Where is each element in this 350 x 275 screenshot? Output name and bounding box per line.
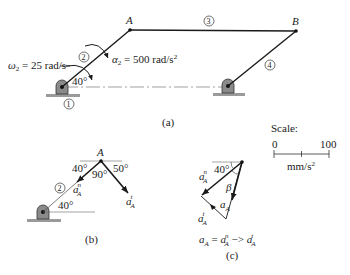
at-label-c: atA — [198, 210, 207, 227]
angle-40-label: 40° — [72, 75, 87, 87]
svg-text:2: 2 — [82, 53, 86, 62]
link-number-1: 1 — [64, 99, 74, 109]
label-point-B: B — [292, 15, 299, 27]
panel-c: 40° β anA aA atA aA = anA −> atA (c) — [198, 160, 256, 262]
joint-A — [128, 28, 132, 32]
beta-label: β — [225, 181, 232, 193]
omega-label: ω2 = 25 rad/s — [8, 59, 66, 73]
caption-b: (b) — [85, 233, 98, 246]
caption-a: (a) — [162, 116, 175, 129]
vector-equation: aA = anA −> atA — [199, 232, 256, 248]
link-4 — [228, 31, 296, 86]
alpha-arc-arrow — [85, 45, 108, 59]
an-label-c: anA — [199, 168, 208, 185]
angle-90: 90° — [92, 168, 107, 180]
scale-title: Scale: — [271, 122, 298, 134]
link-number-2: 2 — [79, 52, 89, 62]
link-3 — [130, 30, 296, 31]
angle-40-base: 40° — [58, 199, 73, 211]
label-point-A: A — [125, 14, 133, 26]
angle-40-left: 40° — [72, 162, 87, 174]
an-label: anA — [73, 181, 82, 198]
scale-min: 0 — [272, 138, 278, 150]
link-number-2-b: 2 — [55, 183, 65, 193]
svg-text:4: 4 — [268, 61, 272, 70]
alpha-label: α2 = 500 rad/s2 — [112, 53, 178, 67]
four-bar-linkage-figure: A B 1 2 3 4 ω2 = 25 rad/s α2 = 500 rad/s… — [0, 0, 350, 275]
scale-bar: Scale: 0 100 mm/s2 — [271, 122, 337, 172]
link-number-4: 4 — [265, 60, 275, 70]
caption-c: (c) — [226, 249, 239, 262]
panel-b: A 40° 50° 90° 40° 2 anA atA (b) — [27, 146, 135, 246]
angle-50-right: 50° — [113, 162, 128, 174]
scale-unit: mm/s2 — [287, 160, 315, 172]
label-point-A-b: A — [96, 146, 104, 158]
beta-arc — [232, 171, 239, 174]
joint-B — [294, 29, 298, 33]
apex-point-c — [240, 160, 244, 164]
scale-max: 100 — [320, 138, 337, 150]
link-number-3: 3 — [204, 16, 214, 26]
panel-a: A B 1 2 3 4 ω2 = 25 rad/s α2 = 500 rad/s… — [8, 14, 299, 129]
ground-pivot-4 — [213, 79, 245, 96]
a-label-c: aA — [220, 198, 231, 213]
resultant-arrow-c — [232, 162, 242, 200]
svg-text:2: 2 — [58, 184, 62, 193]
ground-pivot-b — [27, 205, 61, 222]
svg-text:3: 3 — [207, 17, 211, 26]
at-label: atA — [126, 193, 135, 210]
svg-text:1: 1 — [67, 100, 71, 109]
joint-A-b — [99, 159, 103, 163]
angle-40-c: 40° — [214, 163, 229, 175]
